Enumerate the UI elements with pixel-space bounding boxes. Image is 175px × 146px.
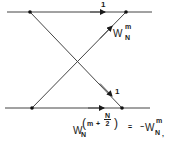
twiddle-sub: N [125,34,130,41]
node-in-bottom [30,106,34,110]
node-out-bottom [120,106,124,110]
diag-up-arrow [100,26,112,38]
twiddle-sup: m [125,23,131,30]
node-in-top [28,10,32,14]
lhs-close-paren: ) [114,117,118,129]
lhs-frac: N 2 [104,112,111,127]
lhs-m: m [87,120,93,127]
rhs-minus: − [140,123,144,130]
lhs-frac-den: 2 [104,119,111,127]
top-edge-weight: 1 [101,1,105,9]
lhs-sub: N [81,131,86,138]
lhs-plus: + [96,120,100,127]
diag-top-to-bottom [30,12,122,108]
lhs-frac-num: N [104,112,111,119]
rhs-sub: N [155,129,160,136]
twiddle-base: W [113,29,122,39]
equals-sign: = [128,123,132,130]
rhs-trailing-comma: , [162,130,164,137]
diag-down-arrow [100,84,112,97]
rhs-sup: m [156,117,162,124]
lhs-open-paren: ( [82,117,86,129]
rhs-base: W [145,123,154,133]
cross-edge-weight: 1 [115,88,119,96]
node-out-top [124,10,128,14]
